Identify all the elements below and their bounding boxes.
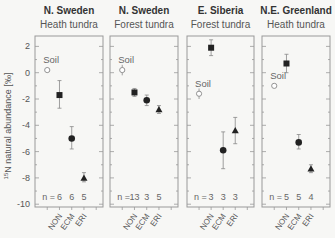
square-marker-icon (283, 60, 289, 66)
y-tick-label: -8 (22, 173, 30, 183)
n-count: 5 (81, 192, 86, 202)
panel-subtitle: Forest tundra (114, 19, 174, 30)
n-prefix: n = (269, 192, 282, 202)
circle-marker-icon (220, 147, 227, 154)
panel-subtitle: Forest tundra (191, 19, 251, 30)
panel-4: N.E. GreenlandHeath tundraNONECMERIn =55… (260, 5, 332, 232)
circle-marker-icon (295, 139, 302, 146)
panel-3: E. SiberiaForest tundraNONECMERIn =333So… (187, 5, 254, 232)
n-prefix: n = (194, 192, 207, 202)
y-tick-label: 2 (25, 41, 30, 51)
n-count: 3 (233, 192, 238, 202)
x-category-label: ERI (74, 212, 89, 228)
y-tick-label: -10 (17, 199, 30, 209)
chart: 20-2-4-6-8-10 15N natural abundance [‰] … (0, 0, 335, 238)
panel-subtitle: Heath tundra (267, 19, 325, 30)
panel-frame (262, 36, 330, 207)
y-tick-label: -2 (22, 94, 30, 104)
panel-title: N. Sweden (44, 5, 95, 16)
y-tick-label: 0 (25, 68, 30, 78)
y-label-main: N natural abundance [‰] (3, 73, 13, 173)
circle-marker-icon (68, 135, 75, 142)
n-count: 6 (69, 192, 74, 202)
panel-2: N. SwedenForest tundraNONECMERIn =1335So… (110, 5, 178, 232)
triangle-marker-icon (80, 174, 87, 180)
soil-marker-icon (196, 91, 201, 96)
soil-marker-icon (120, 67, 125, 72)
panel-title: N. Sweden (119, 5, 170, 16)
square-marker-icon (208, 45, 214, 51)
y-tick-label: -4 (22, 120, 30, 130)
y-tick-label: -6 (22, 147, 30, 157)
triangle-marker-icon (232, 127, 239, 133)
n-count: 13 (129, 192, 139, 202)
panel-subtitle: Heath tundra (40, 19, 98, 30)
circle-marker-icon (143, 97, 150, 104)
n-prefix: n = (117, 192, 130, 202)
panel-frame (187, 36, 254, 207)
n-count: 3 (209, 192, 214, 202)
triangle-marker-icon (155, 106, 162, 112)
square-marker-icon (131, 89, 137, 95)
y-axis-label: 15N natural abundance [‰] (3, 73, 13, 180)
n-count: 3 (144, 192, 149, 202)
n-prefix: n = (42, 192, 55, 202)
n-count: 3 (221, 192, 226, 202)
soil-label: Soil (118, 54, 134, 65)
n-count: 4 (308, 192, 313, 202)
x-category-label: ERI (301, 212, 316, 228)
n-count: 5 (296, 192, 301, 202)
triangle-marker-icon (307, 165, 314, 171)
panel-title: N.E. Greenland (260, 5, 332, 16)
panels: N. SwedenHeath tundraNONECMERIn =665Soil… (35, 5, 332, 232)
panel-title: E. Siberia (198, 5, 244, 16)
square-marker-icon (56, 92, 62, 98)
soil-marker-icon (45, 67, 50, 72)
n-count: 5 (156, 192, 161, 202)
x-category-label: ERI (149, 212, 164, 228)
n-count: 5 (284, 192, 289, 202)
soil-label: Soil (270, 70, 286, 81)
soil-label: Soil (195, 78, 211, 89)
x-category-label: ERI (225, 212, 240, 228)
soil-label: Soil (43, 54, 59, 65)
n-count: 6 (57, 192, 62, 202)
y-axis: 20-2-4-6-8-10 (17, 41, 30, 209)
soil-marker-icon (272, 83, 277, 88)
panel-1: N. SwedenHeath tundraNONECMERIn =665Soil (35, 5, 103, 232)
